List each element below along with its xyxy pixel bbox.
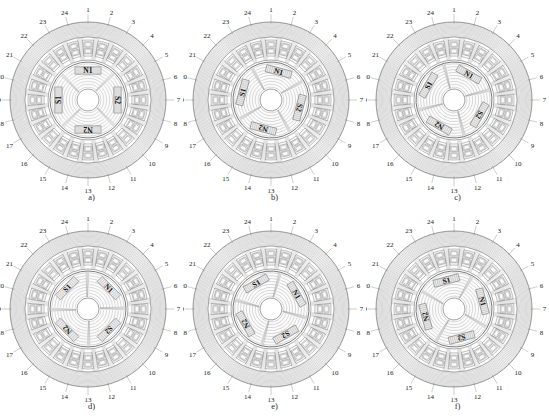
slot-number-label: 2	[293, 9, 297, 17]
slot-number-label: 9	[348, 351, 352, 359]
flux-plot-svg-f: N1S2N2S112345678910111213141516171819202…	[366, 209, 549, 418]
slot-number-label: 6	[540, 73, 544, 81]
stator-slot	[278, 250, 292, 268]
stator-slot	[250, 141, 264, 159]
slot-number-label: 18	[183, 329, 188, 337]
slot-number-label: 6	[174, 73, 178, 81]
slot-number-label: 1	[86, 215, 90, 223]
slot-number-label: 23	[39, 227, 47, 235]
slot-number-label: 22	[21, 32, 29, 40]
stator-slot	[129, 79, 147, 93]
stator-slot	[29, 79, 47, 93]
slot-number-label: 20	[0, 73, 5, 81]
slot-number-label: 5	[348, 51, 352, 59]
slot-number-label: 11	[496, 175, 503, 183]
stator-slot	[95, 350, 109, 368]
slot-number-label: 6	[174, 282, 178, 290]
stator-slot	[395, 288, 413, 302]
slot-number-label: 24	[427, 218, 435, 226]
slot-number-label: 8	[174, 329, 178, 337]
stator-slot	[461, 41, 475, 59]
slot-number-label: 12	[291, 393, 299, 401]
stator-slot	[461, 350, 475, 368]
slot-number-label: 24	[427, 9, 435, 17]
slot-number-label: 3	[315, 18, 319, 26]
slot-number-label: 8	[357, 329, 361, 337]
slot-number-label: 4	[516, 32, 520, 40]
slot-number-label: 5	[165, 51, 169, 59]
slot-number-label: 17	[189, 142, 197, 150]
slot-number-label: 9	[348, 142, 352, 150]
slot-number-label: 17	[6, 142, 14, 150]
flux-plot-svg-c: N1S2N2S112345678910111213141516171819202…	[366, 0, 549, 209]
slot-number-label: 23	[39, 18, 47, 26]
slot-number-label: 16	[21, 160, 29, 168]
slot-number-label: 4	[333, 241, 337, 249]
slot-number-label: 21	[372, 51, 380, 59]
stator-slot	[495, 107, 513, 121]
slot-number-label: 14	[244, 393, 252, 401]
stator-slot	[95, 141, 109, 159]
stator-slot	[250, 41, 264, 59]
slot-number-label: 19	[183, 305, 185, 313]
slot-number-label: 18	[183, 120, 188, 128]
slot-number-label: 16	[387, 160, 395, 168]
slot-number-label: 16	[204, 160, 212, 168]
slot-number-label: 10	[148, 160, 156, 168]
stator-slot	[395, 107, 413, 121]
slot-number-label: 11	[130, 175, 137, 183]
slot-number-label: 2	[476, 218, 480, 226]
magnet-label-s2: S2	[113, 96, 122, 104]
slot-number-label: 4	[333, 32, 337, 40]
flux-plot-svg-e: N1S2N2S112345678910111213141516171819202…	[183, 209, 366, 418]
slot-number-label: 3	[498, 18, 502, 26]
slot-number-label: 3	[132, 18, 136, 26]
slot-number-label: 21	[189, 260, 197, 268]
stator-slot	[95, 250, 109, 268]
flux-plot-panel-a: N1S2N2S112345678910111213141516171819202…	[0, 0, 183, 209]
slot-number-label: 22	[21, 241, 29, 249]
slot-number-label: 21	[372, 260, 380, 268]
stator-slot	[312, 79, 330, 93]
slot-number-label: 20	[183, 282, 188, 290]
stator-slot	[312, 316, 330, 330]
slot-number-label: 8	[540, 120, 544, 128]
slot-number-label: 14	[427, 393, 435, 401]
panel-caption-b: b)	[183, 192, 366, 202]
slot-number-label: 12	[474, 184, 482, 192]
slot-number-label: 9	[531, 142, 535, 150]
stator-slot	[67, 350, 81, 368]
slot-number-label: 6	[357, 73, 361, 81]
slot-number-label: 9	[165, 142, 169, 150]
slot-number-label: 11	[313, 175, 320, 183]
slot-number-label: 6	[357, 282, 361, 290]
slot-number-label: 12	[474, 393, 482, 401]
flux-plot-svg-b: N1S2N2S112345678910111213141516171819202…	[183, 0, 366, 209]
slot-number-label: 19	[0, 96, 2, 104]
slot-number-label: 20	[0, 282, 5, 290]
slot-number-label: 12	[108, 184, 116, 192]
slot-number-label: 24	[61, 9, 69, 17]
stator-slot	[495, 288, 513, 302]
slot-number-label: 17	[372, 351, 380, 359]
slot-number-label: 1	[452, 6, 456, 14]
slot-number-label: 1	[86, 6, 90, 14]
stator-slot	[129, 107, 147, 121]
stator-slot	[461, 250, 475, 268]
stator-slot	[395, 316, 413, 330]
slot-number-label: 19	[183, 96, 185, 104]
stator-slot	[278, 141, 292, 159]
stator-slot	[29, 288, 47, 302]
slot-number-label: 19	[366, 96, 368, 104]
stator-slot	[312, 288, 330, 302]
slot-number-label: 7	[543, 305, 547, 313]
slot-number-label: 20	[366, 73, 371, 81]
slot-number-label: 23	[222, 227, 230, 235]
slot-number-label: 3	[315, 227, 319, 235]
stator-slot	[433, 350, 447, 368]
slot-number-label: 24	[61, 218, 69, 226]
slot-number-label: 21	[189, 51, 197, 59]
stator-slot	[95, 41, 109, 59]
slot-number-label: 2	[293, 218, 297, 226]
slot-number-label: 24	[244, 218, 252, 226]
